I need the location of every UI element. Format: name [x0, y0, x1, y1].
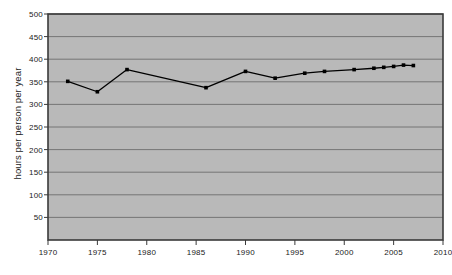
x-axis-tick-label: 1990 [236, 248, 255, 257]
data-point-marker [372, 66, 376, 70]
x-axis-tick-label: 1985 [187, 248, 206, 257]
x-axis-tick-label: 1975 [88, 248, 107, 257]
data-point-marker [323, 70, 327, 74]
data-point-marker [382, 66, 386, 70]
data-point-marker [273, 76, 277, 80]
data-point-marker [66, 80, 70, 84]
data-point-marker [125, 68, 129, 72]
x-axis-tick-label: 2010 [434, 248, 452, 257]
data-point-marker [96, 90, 100, 94]
data-point-marker [352, 68, 356, 72]
data-point-marker [402, 63, 406, 67]
data-point-marker [392, 65, 396, 69]
data-point-marker [204, 86, 208, 90]
x-axis-tick-label: 2005 [384, 248, 403, 257]
x-axis-tick-label: 1970 [39, 248, 58, 257]
x-axis-tick-label: 1995 [286, 248, 305, 257]
data-point-marker [412, 64, 416, 68]
data-point-marker [244, 70, 248, 74]
x-axis-tick-label: 1980 [137, 248, 156, 257]
x-axis-tick-label: 2000 [335, 248, 354, 257]
data-point-marker [303, 71, 307, 75]
